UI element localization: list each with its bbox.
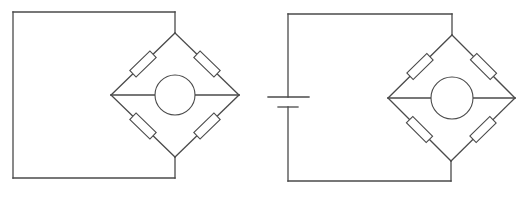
resistor-icon: [407, 53, 433, 79]
resistor-icon: [406, 116, 432, 142]
resistor-icon: [470, 116, 496, 142]
resistor-icon: [470, 53, 496, 79]
galvanometer-icon: [155, 75, 195, 115]
battery-icon: [268, 97, 309, 107]
circuit-right: [268, 14, 515, 181]
circuit-diagram: [0, 0, 529, 199]
resistor-icon: [194, 51, 220, 77]
galvanometer-icon: [431, 77, 473, 119]
resistor-icon: [130, 51, 156, 77]
resistor-icon: [130, 113, 156, 139]
circuit-left: [13, 12, 239, 178]
circuit-diagram-canvas: [0, 0, 529, 199]
resistor-icon: [194, 113, 220, 139]
